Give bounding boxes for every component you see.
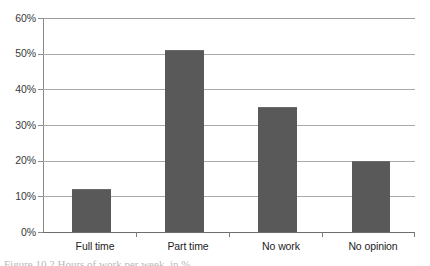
gridline-60 — [43, 18, 415, 19]
plot-area — [43, 18, 415, 232]
x-tick-3 — [322, 232, 323, 237]
y-axis-label-60: 60% — [2, 13, 36, 24]
x-axis-label-no-opinion: No opinion — [324, 240, 422, 252]
y-axis-label-0: 0% — [2, 227, 36, 238]
y-axis-label-20: 20% — [2, 155, 36, 166]
y-axis-label-10: 10% — [2, 191, 36, 202]
x-tick-1 — [136, 232, 137, 237]
x-tick-2 — [229, 232, 230, 237]
y-axis-label-50: 50% — [2, 48, 36, 59]
bar-no-work — [258, 107, 297, 232]
y-axis-label-40: 40% — [2, 84, 36, 95]
x-tick-4 — [414, 232, 415, 237]
gridline-50 — [43, 54, 415, 55]
figure-caption: Figure 10.2 Hours of work per week, in % — [4, 258, 424, 266]
bar-no-opinion — [352, 161, 390, 232]
bar-chart-figure: 60% 50% 40% 30% 20% 10% 0% Full time Par — [0, 0, 430, 266]
y-axis-label-30: 30% — [2, 120, 36, 131]
x-axis-label-no-work: No work — [232, 240, 330, 252]
gridline-40 — [43, 89, 415, 90]
gridline-30 — [43, 125, 415, 126]
y-axis-labels: 60% 50% 40% 30% 20% 10% 0% — [0, 0, 36, 266]
bar-full-time — [72, 189, 111, 232]
x-axis-label-full-time: Full time — [46, 240, 144, 252]
bar-part-time — [165, 50, 204, 232]
x-axis-label-part-time: Part time — [139, 240, 237, 252]
